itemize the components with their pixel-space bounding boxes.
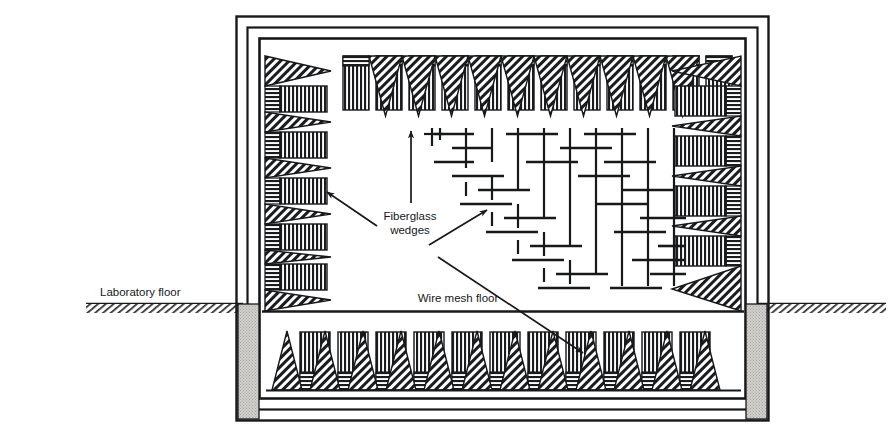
- fiberglass-wedges-label-line2: wedges: [389, 224, 430, 236]
- fiberglass-wedges-label-line1: Fiberglass: [383, 210, 436, 222]
- laboratory-floor-label: Laboratory floor: [100, 286, 181, 298]
- figure-canvas: Laboratory floor: [0, 0, 892, 436]
- right-pedestal: [746, 304, 767, 419]
- anechoic-chamber-diagram: Laboratory floor: [0, 0, 892, 436]
- left-pedestal: [238, 304, 259, 419]
- wire-mesh-floor-label: Wire mesh floor: [418, 292, 499, 304]
- left-wall-wedges: [265, 56, 331, 311]
